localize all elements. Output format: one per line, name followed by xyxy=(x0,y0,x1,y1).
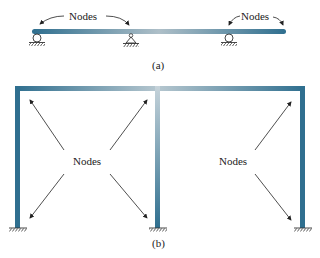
fixed-support-right xyxy=(294,228,312,232)
frame-column-middle xyxy=(155,86,160,228)
structure-diagram: Nodes Nodes (a) Nodes Nodes xyxy=(0,0,320,258)
arrow-icon xyxy=(40,16,64,24)
arrow-icon xyxy=(110,100,147,150)
frame-column-right xyxy=(300,86,305,228)
fixed-support-left xyxy=(9,228,27,232)
roller-support-left xyxy=(29,34,45,46)
arrow-icon xyxy=(30,174,64,218)
arrow-icon xyxy=(229,16,240,25)
fixed-support-middle xyxy=(149,228,167,232)
node-label: Nodes xyxy=(241,10,269,22)
figure-caption: (a) xyxy=(152,59,165,72)
figure-a: Nodes Nodes (a) xyxy=(29,10,286,72)
arrow-icon xyxy=(255,174,291,220)
roller-support-right xyxy=(221,34,237,46)
node-label: Nodes xyxy=(69,10,97,22)
figure-caption: (b) xyxy=(152,237,165,250)
pin-support-middle xyxy=(123,34,139,47)
node-label: Nodes xyxy=(73,155,101,167)
arrow-icon xyxy=(30,100,64,150)
figure-b: Nodes Nodes (b) xyxy=(9,86,312,250)
arrow-icon xyxy=(273,17,283,25)
frame-top-beam-right xyxy=(155,86,305,91)
beam xyxy=(32,29,286,34)
arrow-icon xyxy=(106,16,129,25)
arrow-icon xyxy=(255,102,291,150)
arrow-icon xyxy=(110,174,147,218)
frame-column-left xyxy=(15,86,20,228)
node-label: Nodes xyxy=(219,155,247,167)
frame-top-beam-left xyxy=(15,86,160,91)
